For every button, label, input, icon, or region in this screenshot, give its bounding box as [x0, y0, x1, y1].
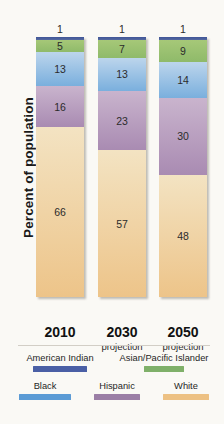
- segment-value: 57: [116, 218, 128, 230]
- bar-segment-black[interactable]: 13: [98, 58, 146, 91]
- stacked-bar[interactable]: 7 13 23 57: [98, 37, 146, 297]
- legend-item-white[interactable]: White: [158, 380, 214, 400]
- segment-value: 7: [119, 43, 125, 55]
- legend-swatch-asian-pacific-islander: [144, 366, 184, 372]
- bar-segment-white[interactable]: 66: [36, 127, 84, 297]
- bar-segment-white[interactable]: 48: [159, 175, 207, 297]
- legend-item-american-indian[interactable]: American Indian: [14, 352, 106, 372]
- x-axis-year: 2050: [143, 324, 223, 341]
- segment-value: 9: [180, 45, 186, 57]
- bar-segment-hispanic[interactable]: 30: [159, 98, 207, 174]
- legend-swatch-white: [163, 394, 209, 400]
- segment-value: 48: [177, 230, 189, 242]
- bar-segment-asian-pacific-islander[interactable]: 5: [36, 40, 84, 53]
- bar-segment-hispanic[interactable]: 23: [98, 91, 146, 150]
- segment-value: 5: [57, 40, 63, 52]
- legend-item-asian-pacific-islander[interactable]: Asian/Pacific Islander: [112, 352, 216, 372]
- legend-row-1: American Indian Asian/Pacific Islander: [8, 352, 220, 380]
- bar-segment-hispanic[interactable]: 16: [36, 86, 84, 127]
- legend-item-hispanic[interactable]: Hispanic: [86, 380, 148, 400]
- bar-segment-asian-pacific-islander[interactable]: 9: [159, 40, 207, 63]
- legend-label: Asian/Pacific Islander: [112, 352, 216, 364]
- segment-value: 13: [54, 63, 66, 75]
- bar-segment-black[interactable]: 13: [36, 52, 84, 85]
- legend-divider: [18, 345, 210, 346]
- segment-value: 13: [116, 68, 128, 80]
- legend-swatch-black: [19, 394, 71, 400]
- legend-row-2: Black Hispanic White: [8, 380, 220, 408]
- x-axis-sublabel: projection: [143, 341, 223, 352]
- legend-swatch-hispanic: [94, 394, 140, 400]
- legend-item-black[interactable]: Black: [12, 380, 78, 400]
- bar-column-2030: 1 7 13 23 57: [98, 22, 146, 298]
- bar-column-2050: 1 9 14 30 48: [159, 22, 207, 298]
- segment-value: 16: [54, 101, 66, 113]
- legend-label: Hispanic: [86, 380, 148, 392]
- legend-label: Black: [12, 380, 78, 392]
- bar-segment-white[interactable]: 57: [98, 150, 146, 297]
- plot-area: 1 5 13 16 66 1 7 13 23 57 1: [28, 22, 224, 298]
- bar-segment-asian-pacific-islander[interactable]: 7: [98, 40, 146, 58]
- chart-page: Percent of population 1 5 13 16 66 1 7 1…: [0, 0, 224, 424]
- bar-top-value: 1: [159, 22, 207, 37]
- segment-value: 66: [54, 206, 66, 218]
- stacked-bar[interactable]: 5 13 16 66: [36, 37, 84, 297]
- legend: American Indian Asian/Pacific Islander B…: [8, 352, 220, 408]
- x-axis-label-2050: 2050 projection: [143, 324, 223, 352]
- legend-label: White: [158, 380, 214, 392]
- bar-column-2010: 1 5 13 16 66: [36, 22, 84, 298]
- legend-swatch-american-indian: [33, 366, 87, 372]
- segment-value: 14: [177, 74, 189, 86]
- bar-top-value: 1: [98, 22, 146, 37]
- segment-value: 30: [177, 130, 189, 142]
- segment-value: 23: [116, 115, 128, 127]
- bar-top-value: 1: [36, 22, 84, 37]
- bar-segment-black[interactable]: 14: [159, 62, 207, 98]
- legend-label: American Indian: [14, 352, 106, 364]
- stacked-bar[interactable]: 9 14 30 48: [159, 37, 207, 297]
